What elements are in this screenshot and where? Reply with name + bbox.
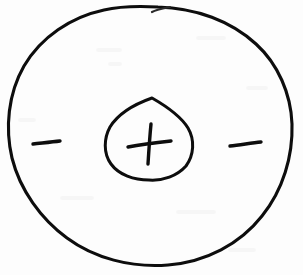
figure-canvas: Hand-drawn atom cross-section A large ha… bbox=[0, 0, 303, 275]
plus-vertical-stroke bbox=[148, 124, 151, 164]
minus-sign-right bbox=[230, 142, 261, 146]
plus-sign bbox=[128, 124, 171, 164]
atom-diagram bbox=[0, 0, 303, 275]
minus-sign-left bbox=[33, 141, 60, 144]
